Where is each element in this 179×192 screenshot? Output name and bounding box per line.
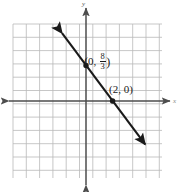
point-label-x-intercept: (2, 0) — [109, 84, 133, 95]
x-axis-label: x — [173, 98, 176, 105]
fraction-denominator: 3 — [100, 62, 106, 71]
y-axis-label: y — [82, 1, 85, 8]
label-comma: , — [94, 56, 97, 67]
label-close-paren: ) — [106, 56, 110, 68]
point-x-intercept — [110, 98, 115, 103]
fraction-eight-thirds: 83 — [100, 52, 106, 71]
coordinate-plane-plot — [0, 0, 179, 192]
fraction-numerator: 8 — [100, 52, 106, 61]
point-label-y-intercept: (0, 83) — [84, 52, 110, 71]
graph-figure: (0, 83) (2, 0) y x — [0, 0, 179, 192]
